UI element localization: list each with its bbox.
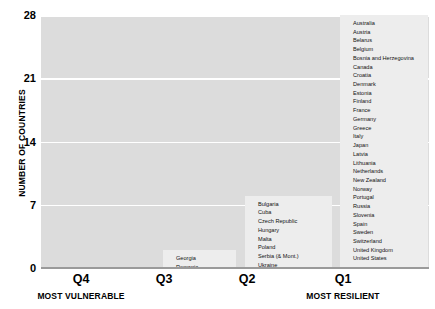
country-label: Netherlands [353,167,428,176]
country-label: Hungary [258,226,332,235]
country-label: Latvia [353,150,428,159]
country-label: Georgia [176,254,236,263]
y-tick-7: 7 [14,200,36,210]
bar-q2-country-list: BulgariaCubaCzech RepublicHungaryMaltaPo… [245,196,332,270]
country-label: Switzerland [353,237,428,246]
country-label: Austria [353,28,428,37]
country-label: Poland [258,243,332,252]
bar-q3[interactable]: GeorgiaRomania [163,250,236,268]
country-label: Estonia [353,89,428,98]
country-label: Japan [353,141,428,150]
x-sublabel-most-resilient: MOST RESILIENT [253,291,433,301]
country-label: Denmark [353,80,428,89]
x-tick-q1: Q1 [283,272,403,286]
x-sublabel-most-vulnerable: MOST VULNERABLE [0,291,171,301]
country-label: Greece [353,124,428,133]
country-label: Bulgaria [258,200,332,209]
country-label: Malta [258,235,332,244]
bar-q1-country-list: AustraliaAustriaBelarusBelgiumBosnia and… [340,15,428,263]
y-tick-28: 28 [14,10,36,20]
country-label: Cuba [258,208,332,217]
country-label: France [353,106,428,115]
country-label: United Kingdom [353,246,428,255]
country-label: Canada [353,63,428,72]
y-tick-21: 21 [14,73,36,83]
y-tick-14: 14 [14,137,36,147]
country-label: Italy [353,132,428,141]
country-label: Czech Republic [258,217,332,226]
country-label: Lithuania [353,159,428,168]
country-label: Finland [353,97,428,106]
country-label: Serbia (& Mont.) [258,252,332,261]
country-label: Bosnia and Herzegovina [353,54,428,63]
bar-q1[interactable]: AustraliaAustriaBelarusBelgiumBosnia and… [340,15,428,268]
country-label: Germany [353,115,428,124]
country-label: Croatia [353,71,428,80]
country-label: Sweden [353,228,428,237]
country-label: Spain [353,220,428,229]
country-label: United States [353,254,428,263]
country-label: Australia [353,19,428,28]
country-label: Norway [353,185,428,194]
country-label: Belarus [353,36,428,45]
plot-area: GeorgiaRomania BulgariaCubaCzech Republi… [41,15,429,268]
country-label: Portugal [353,193,428,202]
bar-chart: NUMBER OF COUNTRIES 28 21 14 7 0 Georgia… [0,0,435,309]
country-label: New Zealand [353,176,428,185]
country-label: Slovenia [353,211,428,220]
country-label: Russia [353,202,428,211]
country-label: Belgium [353,45,428,54]
x-axis-baseline [41,267,429,269]
bar-q2[interactable]: BulgariaCubaCzech RepublicHungaryMaltaPo… [245,196,332,268]
